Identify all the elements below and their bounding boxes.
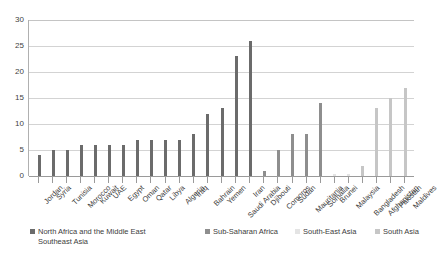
x-axis-tick: [94, 176, 95, 183]
bar[interactable]: [122, 145, 125, 176]
x-axis-label-slot: Qatar: [144, 183, 158, 223]
y-axis-tick-label: 15: [0, 94, 24, 102]
bar[interactable]: [221, 108, 224, 176]
bar-slot: [215, 20, 229, 176]
x-axis-tick-slot: [313, 176, 327, 183]
bar[interactable]: [94, 145, 97, 176]
x-axis-tick-slot: [257, 176, 271, 183]
y-axis-tick-label: 30: [0, 16, 24, 24]
bar[interactable]: [38, 155, 41, 176]
x-axis-tick-slot: [59, 176, 73, 183]
x-axis-label-slot: Iran: [243, 183, 257, 223]
x-axis-tick: [207, 176, 208, 183]
bar-slot: [145, 20, 159, 176]
x-axis-tick: [122, 176, 123, 183]
bar[interactable]: [136, 140, 139, 176]
bar[interactable]: [291, 134, 294, 176]
bar[interactable]: [404, 88, 407, 176]
x-axis-label-slot: Tunisia: [59, 183, 73, 223]
x-axis-tick-slot: [398, 176, 412, 183]
x-axis-label-slot: Maldives: [398, 183, 412, 223]
bar-slot: [173, 20, 187, 176]
bar[interactable]: [80, 145, 83, 176]
plot-area: [28, 20, 414, 176]
x-axis-label-slot: Brunei: [327, 183, 341, 223]
bar[interactable]: [249, 41, 252, 176]
bar[interactable]: [375, 108, 378, 176]
x-axis-tick-slot: [144, 176, 158, 183]
x-axis-tick-slot: [130, 176, 144, 183]
x-axis-tick: [249, 176, 250, 183]
bar-slot: [159, 20, 173, 176]
x-axis-label-slot: Saudi Arabia: [229, 183, 243, 223]
x-axis-label-slot: Comoros: [271, 183, 285, 223]
x-axis-tick-slot: [45, 176, 59, 183]
x-axis-tick-slot: [285, 176, 299, 183]
bar[interactable]: [150, 140, 153, 176]
x-axis-tick: [66, 176, 67, 183]
x-axis-label-slot: Algeria: [172, 183, 186, 223]
legend-swatch-icon: [375, 229, 380, 234]
bar[interactable]: [361, 166, 364, 176]
x-axis-tick: [334, 176, 335, 183]
bar[interactable]: [319, 103, 322, 176]
bar-slot: [285, 20, 299, 176]
x-axis-tick: [38, 176, 39, 183]
legend-item-label: North Africa and the Middle East Southea…: [38, 227, 146, 247]
bar-slot: [342, 20, 356, 176]
y-axis-tick-label: 20: [0, 68, 24, 76]
legend-item-label: South Asia: [383, 227, 419, 237]
x-axis-tick: [150, 176, 151, 183]
bar-slot: [201, 20, 215, 176]
chart-legend: North Africa and the Middle East Southea…: [30, 227, 416, 253]
legend-item-north-africa-and-the-middle-east[interactable]: North Africa and the Middle East Southea…: [30, 227, 180, 247]
legend-item-south-asia[interactable]: South Asia: [375, 227, 441, 237]
bar[interactable]: [206, 114, 209, 176]
bar-slot: [229, 20, 243, 176]
x-axis-tick: [193, 176, 194, 183]
bar-slot: [384, 20, 398, 176]
x-axis-tick: [235, 176, 236, 183]
x-axis-tick: [376, 176, 377, 183]
bar-series: [29, 20, 414, 176]
x-axis-tick-slot: [87, 176, 101, 183]
x-axis-tick: [179, 176, 180, 183]
bar[interactable]: [192, 134, 195, 176]
x-axis-label-slot: Mauritania: [299, 183, 313, 223]
bar[interactable]: [389, 98, 392, 176]
x-axis-tick: [404, 176, 405, 183]
x-axis-tick-slot: [214, 176, 228, 183]
bar[interactable]: [178, 140, 181, 176]
x-axis-tick-slot: [158, 176, 172, 183]
x-axis-tick: [348, 176, 349, 183]
bar[interactable]: [108, 145, 111, 176]
bar-slot: [314, 20, 328, 176]
x-axis-tick-slot: [229, 176, 243, 183]
x-axis-label-slot: Kuwait: [87, 183, 101, 223]
x-axis-tick: [263, 176, 264, 183]
bar[interactable]: [235, 56, 238, 176]
bar[interactable]: [277, 150, 280, 176]
y-axis-tick-label: 5: [0, 146, 24, 154]
x-axis-label-slot: Malaysia: [341, 183, 355, 223]
x-axis-tick: [306, 176, 307, 183]
x-axis-tick: [292, 176, 293, 183]
bar[interactable]: [164, 140, 167, 176]
x-axis-tick-slot: [271, 176, 285, 183]
x-axis-tick: [221, 176, 222, 183]
bar[interactable]: [66, 150, 69, 176]
bar-slot: [257, 20, 271, 176]
bar-slot: [299, 20, 313, 176]
x-axis-tick-slot: [327, 176, 341, 183]
x-axis-label-slot: Afghanistan: [370, 183, 384, 223]
bar-slot: [46, 20, 60, 176]
legend-swatch-icon: [30, 229, 35, 234]
bar[interactable]: [52, 150, 55, 176]
x-axis-tick-slot: [384, 176, 398, 183]
bar-slot: [102, 20, 116, 176]
x-axis-label-slot: Iraq: [186, 183, 200, 223]
bar[interactable]: [305, 134, 308, 176]
x-axis-label-slot: Bangladesh: [356, 183, 370, 223]
y-axis-tick-label: 25: [0, 42, 24, 50]
x-axis-ticks: [28, 176, 414, 183]
